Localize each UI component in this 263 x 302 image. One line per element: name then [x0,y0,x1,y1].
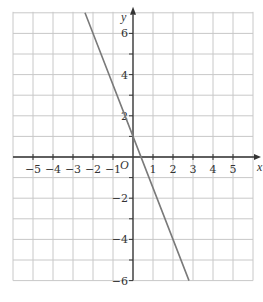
x-tick-label: 2 [170,163,177,176]
x-tick-label: −5 [25,163,41,176]
x-axis-label: x [256,160,263,174]
x-tick-label: −2 [85,163,101,176]
x-tick-label: −4 [45,163,61,176]
y-axis-label: y [120,10,127,24]
x-tick-label: 3 [190,163,197,176]
y-tick-label: −4 [112,233,128,246]
y-tick-label: 4 [121,69,128,82]
y-axis-arrow-icon [130,7,136,15]
x-tick-label: −1 [105,163,121,176]
y-tick-label: −6 [112,275,128,288]
origin-label: O [120,158,129,172]
x-tick-label: 4 [210,163,217,176]
line-graph: −5−4−3−2−112345642−2−4−6 x y O [0,0,263,302]
x-tick-label: 5 [230,163,237,176]
y-tick-label: 6 [121,27,128,40]
x-tick-label: 1 [150,163,157,176]
y-tick-label: −2 [112,192,128,205]
x-tick-label: −3 [65,163,81,176]
